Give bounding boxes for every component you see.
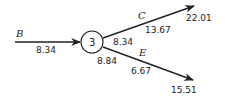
edge-c-label: C: [138, 10, 146, 21]
edge-b-label: B: [15, 28, 23, 39]
network-diagram: B 8.34 3 C 13.67 8.34 22.01 E 6.67 8.84 …: [0, 0, 225, 103]
edge-e-label: E: [138, 47, 147, 58]
edge-e: E 6.67 8.84 15.51: [97, 47, 197, 95]
node-3: 3: [81, 31, 103, 53]
node-out-e-value: 8.84: [97, 56, 117, 66]
edge-e-end-value: 15.51: [171, 85, 197, 95]
edge-c-value: 13.67: [145, 25, 171, 35]
edge-b: B 8.34: [15, 28, 80, 55]
edge-c-end-value: 22.01: [186, 13, 212, 23]
node-out-c-value: 8.34: [113, 37, 133, 47]
edge-e-value: 6.67: [131, 66, 151, 76]
node-label: 3: [89, 37, 95, 48]
edge-b-value: 8.34: [36, 45, 56, 55]
edge-c: C 13.67 8.34 22.01: [103, 6, 212, 47]
